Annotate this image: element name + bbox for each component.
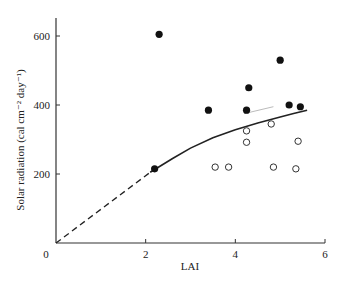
scatter-chart: 0246200400600 LAI Solar radiation (cal c… (0, 0, 343, 285)
filled-point (156, 31, 163, 38)
filled-point (297, 103, 304, 110)
open-point (270, 164, 276, 170)
filled-point (286, 101, 293, 108)
extrapolation-line (56, 172, 150, 243)
y-axis-title: Solar radiation (cal cm⁻² day⁻¹) (14, 69, 27, 211)
filled-point (243, 107, 250, 114)
x-tick-label: 0 (43, 248, 49, 260)
y-tick-label: 400 (34, 99, 51, 111)
data-points (151, 31, 304, 173)
x-tick-label: 2 (143, 248, 149, 260)
open-point (268, 121, 274, 127)
filled-point (205, 107, 212, 114)
open-point (295, 138, 301, 144)
open-point (243, 139, 249, 145)
filled-point (277, 57, 284, 64)
axes: 0246200400600 (34, 18, 329, 260)
x-tick-label: 6 (322, 248, 328, 260)
x-axis-title: LAI (181, 260, 200, 272)
y-tick-label: 200 (34, 168, 51, 180)
x-tick-label: 4 (233, 248, 239, 260)
y-tick-label: 600 (34, 30, 51, 42)
open-point (293, 166, 299, 172)
filled-point (151, 165, 158, 172)
fitted-curve-line (150, 110, 307, 172)
open-point (225, 164, 231, 170)
open-point (243, 128, 249, 134)
open-point (212, 164, 218, 170)
filled-point (245, 84, 252, 91)
